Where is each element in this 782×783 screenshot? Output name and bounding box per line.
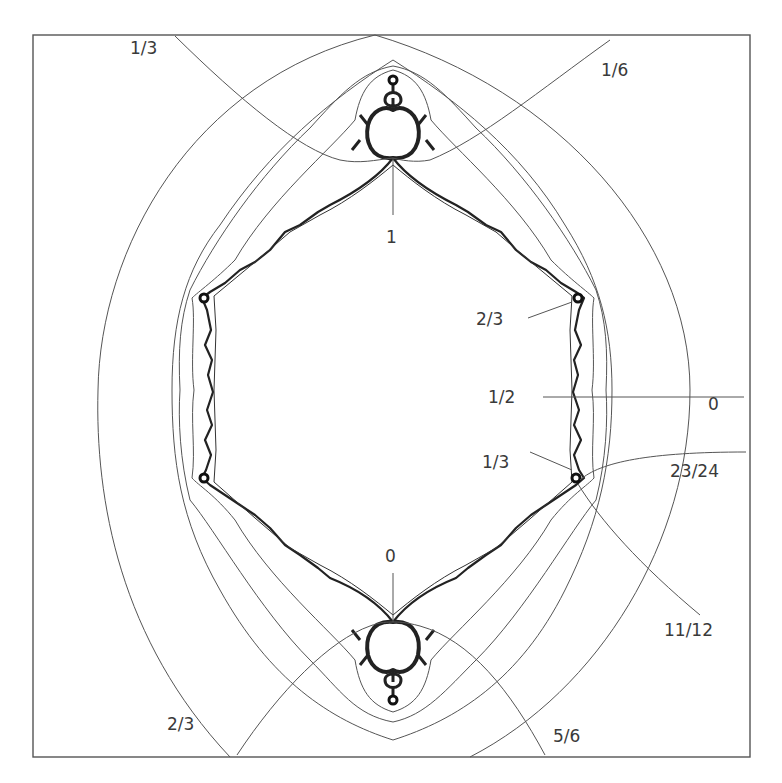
- label-ray-bottom-left: 2/3: [167, 714, 194, 734]
- label-cusp-lower-right: 1/3: [482, 452, 509, 472]
- ray-1-3-pointer: [530, 452, 572, 470]
- label-ray-right-zero: 0: [708, 394, 719, 414]
- label-ray-top-right: 1/6: [601, 60, 628, 80]
- ray-2-3-pointer: [528, 302, 572, 318]
- bottom-cardioid: [352, 622, 434, 704]
- label-cusp-bottom: 0: [385, 546, 396, 566]
- fractal-diagram: 1/3 1/6 1 2/3 0 1/2 1/3 23/24 0 11/12 2/…: [0, 0, 782, 783]
- label-ray-right-half: 1/2: [488, 387, 515, 407]
- label-cusp-top: 1: [386, 227, 397, 247]
- label-ray-11-12: 11/12: [664, 620, 713, 640]
- label-ray-23-24: 23/24: [670, 461, 719, 481]
- cusp-blobs: [200, 294, 582, 482]
- label-ray-bottom-right: 5/6: [553, 726, 580, 746]
- label-cusp-upper-right: 2/3: [476, 309, 503, 329]
- top-cardioid: [352, 76, 434, 158]
- label-ray-top-left: 1/3: [130, 38, 157, 58]
- ray-11-12: [578, 484, 700, 615]
